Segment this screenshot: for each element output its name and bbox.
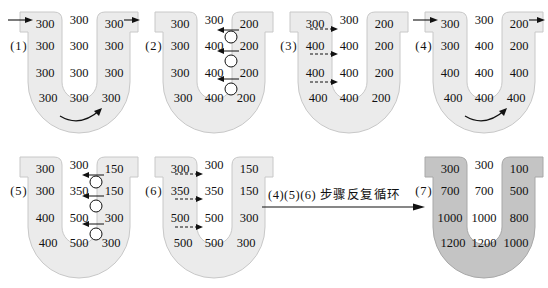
- osmolarity-value-left: 500: [174, 236, 193, 250]
- osmolarity-value-right: 200: [375, 66, 394, 80]
- osmolarity-value-left: 400: [39, 236, 58, 250]
- repeat-cycle-arrow-icon: [260, 200, 430, 214]
- osmolarity-value-right: 200: [375, 17, 394, 31]
- osmolarity-value-middle: 500: [205, 211, 224, 225]
- osmolarity-value-left: 300: [171, 66, 190, 80]
- osmolarity-value-right: 400: [507, 91, 526, 105]
- osmolarity-value-left: 400: [36, 211, 55, 225]
- step-label: (5): [10, 184, 28, 199]
- osmolarity-value-right: 200: [240, 17, 259, 31]
- osmolarity-value-left: 300: [441, 39, 460, 53]
- osmolarity-value-right: 400: [510, 66, 529, 80]
- step-label: (6): [145, 184, 163, 199]
- osmolarity-value-middle: 400: [205, 39, 224, 53]
- step-label: (3): [280, 39, 298, 54]
- osmolarity-value-right: 200: [510, 39, 529, 53]
- osmolarity-value-middle: 300: [340, 13, 359, 27]
- osmolarity-value-right: 300: [240, 211, 259, 225]
- osmolarity-value-right: 300: [105, 66, 124, 80]
- osmolarity-value-middle: 1200: [472, 236, 497, 250]
- osmolarity-value-left: 300: [171, 17, 190, 31]
- osmolarity-value-middle: 400: [205, 66, 224, 80]
- osmolarity-value-middle: 300: [475, 13, 494, 27]
- osmolarity-value-right: 100: [510, 162, 529, 176]
- osmolarity-value-middle: 400: [340, 66, 359, 80]
- osmolarity-value-right: 300: [105, 39, 124, 53]
- osmolarity-value-left: 300: [174, 91, 193, 105]
- u-tube-panel-1: 300300300300300300300300300300300300(1): [0, 0, 140, 140]
- osmolarity-value-right: 150: [105, 184, 124, 198]
- osmolarity-value-middle: 400: [340, 39, 359, 53]
- u-tube-panel-7: 3007001000120030070010001200100500800100…: [405, 145, 545, 285]
- osmolarity-value-right: 200: [375, 39, 394, 53]
- osmolarity-value-left: 300: [441, 17, 460, 31]
- osmolarity-value-left: 300: [171, 162, 190, 176]
- osmolarity-value-middle: 300: [70, 158, 89, 172]
- osmolarity-value-middle: 1000: [472, 211, 497, 225]
- osmolarity-value-middle: 400: [475, 66, 494, 80]
- osmolarity-value-right: 150: [240, 162, 259, 176]
- osmolarity-value-middle: 300: [205, 13, 224, 27]
- osmolarity-value-left: 700: [441, 184, 460, 198]
- step-label: (7): [415, 184, 433, 199]
- osmolarity-value-middle: 400: [475, 91, 494, 105]
- osmolarity-value-right: 800: [510, 211, 529, 225]
- osmolarity-value-middle: 500: [205, 236, 224, 250]
- osmolarity-value-left: 350: [171, 184, 190, 198]
- osmolarity-value-middle: 500: [70, 236, 89, 250]
- osmolarity-value-middle: 300: [70, 13, 89, 27]
- osmolarity-value-left: 300: [441, 162, 460, 176]
- osmolarity-value-middle: 350: [70, 184, 89, 198]
- osmolarity-value-middle: 300: [70, 66, 89, 80]
- osmolarity-value-left: 300: [36, 184, 55, 198]
- osmolarity-value-left: 1000: [438, 211, 463, 225]
- osmolarity-value-right: 200: [237, 91, 256, 105]
- osmolarity-value-left: 300: [36, 17, 55, 31]
- osmolarity-value-left: 400: [306, 39, 325, 53]
- u-tube-panel-5: 300300400400300350500500150150300300(5): [0, 145, 140, 285]
- osmolarity-value-right: 300: [237, 236, 256, 250]
- osmolarity-value-middle: 300: [205, 158, 224, 172]
- osmolarity-value-left: 400: [444, 91, 463, 105]
- osmolarity-value-left: 1200: [441, 236, 466, 250]
- osmolarity-value-left: 300: [171, 39, 190, 53]
- osmolarity-value-middle: 400: [205, 91, 224, 105]
- osmolarity-value-right: 300: [105, 17, 124, 31]
- step-label: (2): [145, 39, 163, 54]
- osmolarity-value-right: 500: [510, 184, 529, 198]
- osmolarity-value-middle: 400: [475, 39, 494, 53]
- u-tube-panel-4: 300300400400300400400400200200400400(4): [405, 0, 545, 140]
- osmolarity-value-left: 300: [36, 39, 55, 53]
- osmolarity-value-left: 300: [306, 17, 325, 31]
- u-tube-panel-6: 300350500500300350500500150150300300(6): [135, 145, 275, 285]
- u-tube-panel-2: 300300300300300400400400200200200200(2): [135, 0, 275, 140]
- osmolarity-value-middle: 500: [70, 211, 89, 225]
- osmolarity-value-middle: 700: [475, 184, 494, 198]
- u-tube-panel-3: 300400400400300400400400200200200200(3): [270, 0, 410, 140]
- osmolarity-value-middle: 300: [70, 39, 89, 53]
- osmolarity-value-middle: 400: [340, 91, 359, 105]
- osmolarity-value-right: 300: [102, 91, 121, 105]
- osmolarity-value-right: 1000: [504, 236, 529, 250]
- osmolarity-value-right: 200: [240, 39, 259, 53]
- osmolarity-value-right: 300: [102, 236, 121, 250]
- osmolarity-value-left: 300: [36, 162, 55, 176]
- osmolarity-value-middle: 350: [205, 184, 224, 198]
- osmolarity-value-right: 300: [105, 211, 124, 225]
- osmolarity-value-left: 400: [306, 66, 325, 80]
- osmolarity-value-left: 300: [36, 66, 55, 80]
- osmolarity-value-middle: 300: [475, 158, 494, 172]
- osmolarity-value-right: 200: [240, 66, 259, 80]
- step-label: (4): [415, 39, 433, 54]
- osmolarity-value-right: 200: [510, 17, 529, 31]
- osmolarity-value-right: 200: [372, 91, 391, 105]
- osmolarity-value-left: 400: [441, 66, 460, 80]
- step-label: (1): [10, 39, 28, 54]
- osmolarity-value-middle: 300: [70, 91, 89, 105]
- osmolarity-value-left: 300: [39, 91, 58, 105]
- osmolarity-value-right: 150: [240, 184, 259, 198]
- osmolarity-value-right: 150: [105, 162, 124, 176]
- osmolarity-value-left: 400: [309, 91, 328, 105]
- osmolarity-value-left: 500: [171, 211, 190, 225]
